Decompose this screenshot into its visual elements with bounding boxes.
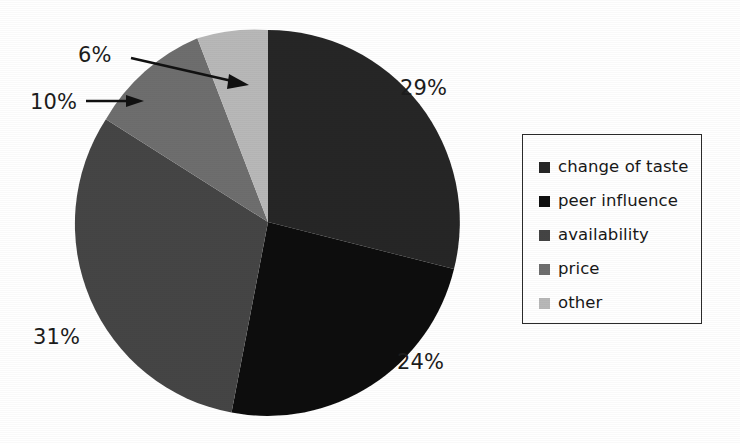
slice-value-label-change-of-taste: 29% — [400, 78, 447, 99]
pie-chart-figure: 29% 24% 31% 10% 6% change of taste peer … — [0, 0, 740, 443]
legend-item-label: peer influence — [558, 193, 678, 210]
legend-item-label: change of taste — [558, 159, 688, 176]
chart-legend: change of taste peer influence availabil… — [522, 134, 702, 324]
legend-item-label: availability — [558, 227, 649, 244]
legend-item-label: price — [558, 261, 600, 278]
legend-item-price: price — [539, 253, 701, 285]
slice-value-label-price: 10% — [30, 92, 77, 113]
legend-swatch-icon — [539, 196, 550, 207]
legend-item-peer-influence: peer influence — [539, 185, 701, 217]
slice-value-label-peer-influence: 24% — [397, 352, 444, 373]
legend-item-label: other — [558, 295, 602, 312]
legend-swatch-icon — [539, 298, 550, 309]
legend-swatch-icon — [539, 264, 550, 275]
legend-item-change-of-taste: change of taste — [539, 151, 701, 183]
slice-value-label-other: 6% — [78, 45, 112, 66]
pie-chart-graphic — [0, 0, 500, 443]
pie-svg — [0, 0, 500, 443]
legend-item-other: other — [539, 287, 701, 319]
slice-value-label-availability: 31% — [33, 327, 80, 348]
legend-swatch-icon — [539, 162, 550, 173]
legend-swatch-icon — [539, 230, 550, 241]
legend-item-availability: availability — [539, 219, 701, 251]
